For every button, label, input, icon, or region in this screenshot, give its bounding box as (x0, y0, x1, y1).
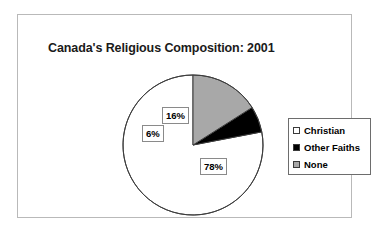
chart-title: Canada's Religious Composition: 2001 (48, 41, 275, 55)
data-label-other-faiths: 6% (142, 125, 164, 142)
chart-frame: Canada's Religious Composition: 2001 16%… (17, 14, 352, 218)
legend-label-other-faiths: Other Faiths (304, 143, 360, 153)
legend-item-none[interactable]: None (293, 156, 370, 173)
data-label-none: 16% (162, 107, 189, 124)
legend-item-other-faiths[interactable]: Other Faiths (293, 139, 370, 156)
legend-swatch-other-faiths (293, 144, 300, 151)
pie-chart-svg (121, 73, 265, 217)
legend-item-christian[interactable]: Christian (293, 122, 370, 139)
pie-chart-plot-area (121, 73, 265, 217)
data-label-christian: 78% (200, 158, 227, 175)
legend-label-christian: Christian (304, 126, 345, 136)
legend-label-none: None (304, 160, 328, 170)
chart-legend: Christian Other Faiths None (288, 118, 371, 175)
legend-swatch-none (293, 161, 300, 168)
legend-swatch-christian (293, 127, 300, 134)
